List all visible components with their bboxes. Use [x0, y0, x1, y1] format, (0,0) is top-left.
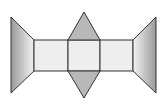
right-trapezoid	[133, 17, 156, 93]
top-triangle	[68, 12, 100, 40]
bottom-triangle	[68, 71, 100, 98]
net-diagram	[0, 0, 161, 110]
rect-center	[68, 40, 100, 71]
rect-left	[34, 40, 68, 71]
left-trapezoid	[11, 17, 34, 93]
rect-right	[100, 40, 133, 71]
